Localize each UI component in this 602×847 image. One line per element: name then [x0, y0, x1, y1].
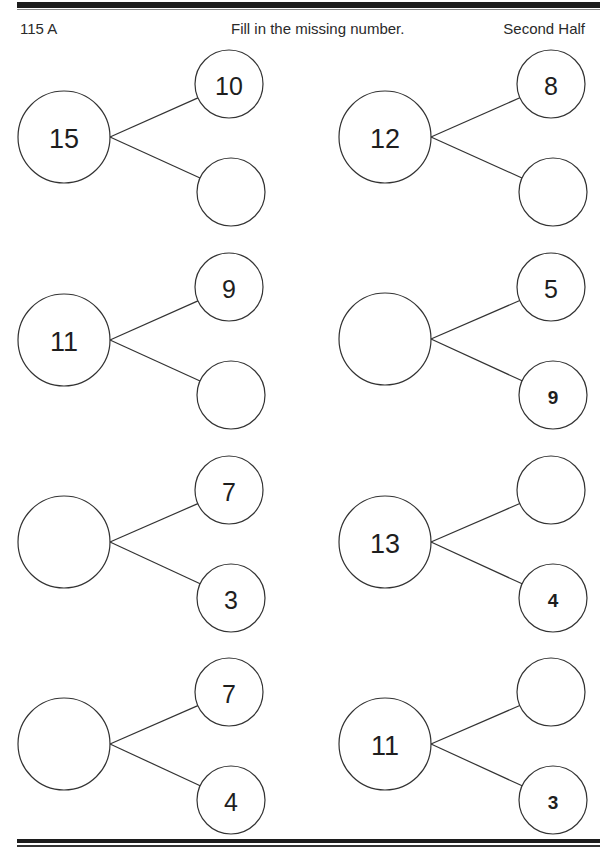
- number-bonds-diagram: [0, 0, 602, 847]
- bond-connector-line: [110, 137, 200, 178]
- part-number-bottom: 9: [548, 388, 559, 407]
- part-circle-bottom-blank: [519, 158, 587, 226]
- bond-connector-line: [431, 137, 522, 178]
- bond-connector-line: [110, 98, 198, 137]
- part-number-top: 8: [544, 74, 558, 99]
- whole-circle-blank: [18, 698, 110, 790]
- bond-connector-line: [431, 301, 520, 339]
- whole-number: 11: [50, 329, 78, 356]
- part-number-bottom: 3: [224, 588, 238, 613]
- bond-connector-line: [431, 542, 522, 584]
- bottom-rule: [17, 839, 600, 843]
- bond-connector-line: [110, 542, 200, 584]
- part-number-top: 5: [544, 277, 558, 302]
- part-number-top: 7: [222, 480, 236, 505]
- part-circle-top-blank: [517, 658, 585, 726]
- bond-connector-line: [110, 504, 198, 542]
- bond-connector-line: [431, 744, 522, 786]
- bond-connector-line: [431, 504, 520, 542]
- whole-number: 15: [49, 126, 79, 153]
- part-number-bottom: 3: [548, 793, 559, 812]
- part-number-bottom: 4: [224, 790, 238, 815]
- whole-circle-blank: [18, 496, 110, 588]
- whole-number: 13: [370, 531, 400, 558]
- bond-connector-line: [110, 340, 200, 381]
- part-number-top: 10: [215, 74, 243, 99]
- bond-connector-line: [431, 706, 520, 744]
- part-number-top: 9: [222, 277, 236, 302]
- part-number-bottom: 4: [548, 591, 559, 610]
- bond-connector-line: [110, 744, 200, 786]
- whole-number: 12: [370, 126, 400, 153]
- part-number-top: 7: [222, 682, 236, 707]
- whole-circle-blank: [339, 293, 431, 385]
- whole-number: 11: [371, 733, 399, 760]
- bond-connector-line: [431, 339, 522, 381]
- part-circle-top-blank: [517, 456, 585, 524]
- bond-connector-line: [431, 98, 520, 137]
- bond-connector-line: [110, 706, 198, 744]
- part-circle-bottom-blank: [197, 361, 265, 429]
- part-circle-bottom-blank: [197, 158, 265, 226]
- bond-connector-line: [110, 301, 198, 340]
